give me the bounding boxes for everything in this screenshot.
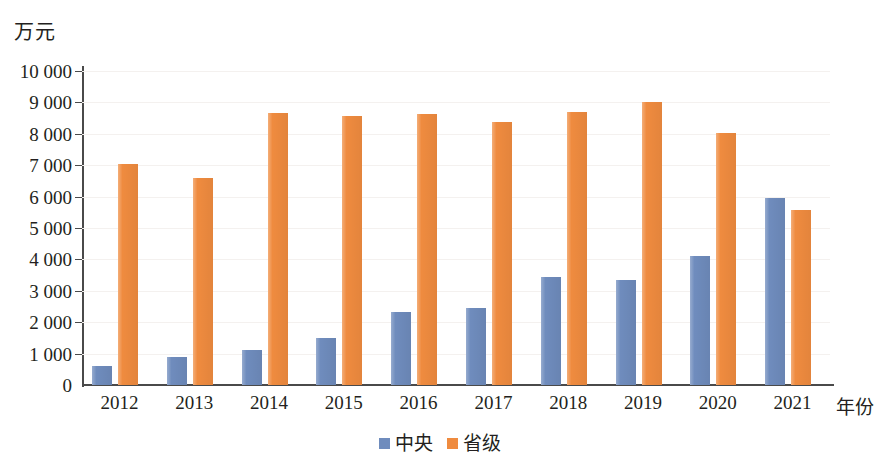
legend-item-central[interactable]: 中央 — [379, 434, 433, 453]
bar-provincial-2012 — [118, 164, 138, 385]
bar-provincial-2013 — [193, 178, 213, 385]
bar-group — [531, 71, 606, 385]
x-axis-tick-label-2021: 2021 — [748, 392, 838, 414]
legend-item-provincial[interactable]: 省级 — [447, 434, 501, 453]
bar-provincial-2014 — [268, 113, 288, 385]
y-axis-tick — [75, 165, 82, 166]
bar-central-2016 — [391, 312, 411, 385]
plot-area: 01 0002 0003 0004 0005 0006 0007 0008 00… — [82, 71, 830, 385]
y-axis-tick-label: 6 000 — [29, 187, 72, 206]
y-axis-tick-label: 4 000 — [29, 250, 72, 269]
bar-central-2013 — [167, 357, 187, 385]
bar-group — [157, 71, 232, 385]
bar-chart: 万元 01 0002 0003 0004 0005 0006 0007 0008… — [0, 0, 879, 467]
bar-group — [232, 71, 307, 385]
y-axis-tick — [75, 322, 82, 323]
bar-provincial-2018 — [567, 112, 587, 385]
y-axis-tick — [75, 197, 82, 198]
y-axis-tick-label: 1 000 — [29, 344, 72, 363]
y-axis-unit-label: 万元 — [14, 16, 56, 45]
y-axis-tick-label: 9 000 — [29, 93, 72, 112]
bar-central-2015 — [316, 338, 336, 385]
bar-group — [456, 71, 531, 385]
y-axis-tick-label: 7 000 — [29, 156, 72, 175]
y-axis-tick — [75, 102, 82, 103]
y-axis-tick — [75, 354, 82, 355]
bar-provincial-2015 — [342, 116, 362, 385]
legend-label: 中央 — [395, 434, 433, 453]
bar-central-2019 — [616, 280, 636, 385]
y-axis-tick-label: 2 000 — [29, 313, 72, 332]
bar-provincial-2020 — [716, 133, 736, 385]
bar-provincial-2017 — [492, 122, 512, 385]
y-axis-tick — [75, 71, 82, 72]
legend-label: 省级 — [463, 434, 501, 453]
bar-central-2021 — [765, 198, 785, 385]
y-axis-tick-label: 0 — [63, 376, 73, 395]
x-axis-unit-label: 年份 — [836, 392, 874, 419]
y-axis-tick-label: 8 000 — [29, 124, 72, 143]
y-axis-tick — [75, 228, 82, 229]
bar-group — [306, 71, 381, 385]
y-axis-tick — [75, 259, 82, 260]
bar-central-2017 — [466, 308, 486, 385]
bar-central-2020 — [690, 256, 710, 385]
bar-central-2018 — [541, 277, 561, 385]
y-axis-tick-label: 3 000 — [29, 281, 72, 300]
bar-group — [82, 71, 157, 385]
legend-swatch-icon — [447, 438, 458, 449]
bar-central-2014 — [242, 350, 262, 385]
y-axis-tick — [75, 291, 82, 292]
chart-legend: 中央省级 — [0, 434, 879, 453]
y-axis-tick-label: 5 000 — [29, 219, 72, 238]
bar-group — [606, 71, 681, 385]
bar-central-2012 — [92, 366, 112, 385]
bar-provincial-2019 — [642, 102, 662, 385]
bar-group — [755, 71, 830, 385]
bar-group — [381, 71, 456, 385]
bar-provincial-2016 — [417, 114, 437, 385]
y-axis-tick-label: 10 000 — [20, 62, 72, 81]
legend-swatch-icon — [379, 438, 390, 449]
y-axis-tick — [75, 134, 82, 135]
bar-provincial-2021 — [791, 210, 811, 385]
bar-group — [680, 71, 755, 385]
